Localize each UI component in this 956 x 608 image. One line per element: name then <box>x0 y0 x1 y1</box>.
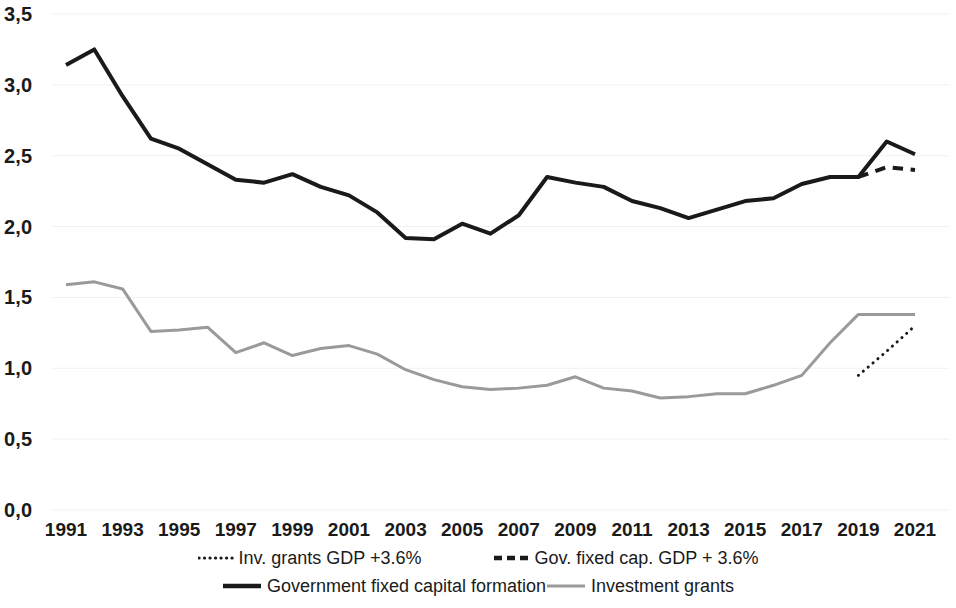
legend-item-gov-fixed-cap-gdp[interactable]: Gov. fixed cap. GDP + 3.6% <box>493 549 758 567</box>
legend-label: Inv. grants GDP +3.6% <box>239 549 422 567</box>
legend-item-investment-grants[interactable]: Investment grants <box>546 577 734 595</box>
x-tick-label: 2019 <box>837 518 879 543</box>
series-lines <box>66 49 915 398</box>
x-tick-label: 2011 <box>611 518 652 543</box>
x-tick-label: 2017 <box>781 518 823 543</box>
dashed-line-icon <box>493 551 529 565</box>
x-tick-label: 1999 <box>271 518 313 543</box>
x-axis: 1991199319951997199920012003200520072009… <box>0 518 956 546</box>
x-tick-label: 1997 <box>215 518 257 543</box>
legend-row-bottom: Government fixed capital formation Inves… <box>0 577 956 595</box>
legend-item-inv-grants-gdp[interactable]: Inv. grants GDP +3.6% <box>198 549 422 567</box>
x-tick-label: 2009 <box>554 518 596 543</box>
x-tick-label: 2007 <box>498 518 540 543</box>
x-tick-label: 1991 <box>45 518 87 543</box>
plot-area: 0,00,51,01,52,02,53,03,5 199119931995199… <box>0 0 956 530</box>
x-tick-label: 2015 <box>724 518 766 543</box>
dotted-line-icon <box>198 551 234 565</box>
x-tick-label: 2021 <box>894 518 936 543</box>
x-tick-label: 1993 <box>101 518 143 543</box>
chart-figure: 0,00,51,01,52,02,53,03,5 199119931995199… <box>0 0 956 608</box>
solid-gray-line-icon <box>546 579 586 593</box>
x-tick-label: 2003 <box>384 518 426 543</box>
legend-row-top: Inv. grants GDP +3.6% Gov. fixed cap. GD… <box>0 549 956 567</box>
legend-label: Government fixed capital formation <box>267 577 546 595</box>
x-tick-label: 2005 <box>441 518 483 543</box>
series-canvas <box>0 0 956 530</box>
series-line <box>66 282 915 398</box>
solid-line-icon <box>222 579 262 593</box>
x-tick-label: 1995 <box>158 518 200 543</box>
series-line <box>66 49 915 239</box>
legend-label: Gov. fixed cap. GDP + 3.6% <box>534 549 758 567</box>
legend-item-government-fixed-capital-formation[interactable]: Government fixed capital formation <box>222 577 546 595</box>
legend-label: Investment grants <box>591 577 734 595</box>
gridlines <box>52 14 950 510</box>
x-tick-label: 2013 <box>667 518 709 543</box>
chart-legend: Inv. grants GDP +3.6% Gov. fixed cap. GD… <box>0 549 956 608</box>
x-tick-label: 2001 <box>328 518 370 543</box>
